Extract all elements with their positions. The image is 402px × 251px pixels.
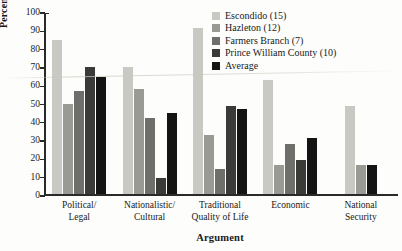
bar — [285, 144, 295, 195]
bar — [204, 135, 214, 195]
x-axis-label-line: National — [326, 200, 396, 212]
legend-label: Farmers Branch (7) — [225, 36, 303, 46]
y-axis-tick-label: 40 — [18, 118, 40, 128]
y-axis-tick — [40, 195, 45, 196]
bar-group — [44, 13, 114, 194]
legend-item: Prince William County (10) — [212, 48, 336, 58]
bar — [145, 118, 155, 194]
x-axis-title: Argument — [44, 232, 396, 243]
x-axis-label-line: Quality of Life — [185, 212, 255, 224]
x-axis-label: Economic — [255, 200, 325, 234]
y-axis-tick-label: 0 — [18, 191, 40, 201]
y-axis-tick-label: 80 — [18, 45, 40, 55]
bar — [134, 89, 144, 194]
bar — [237, 109, 247, 194]
legend-item: Average — [212, 61, 336, 71]
bar — [96, 77, 106, 195]
y-axis-tick-label: 10 — [18, 173, 40, 183]
chart-legend: Escondido (15)Hazleton (12)Farmers Branc… — [212, 11, 336, 71]
y-axis-tick-label: 50 — [18, 100, 40, 110]
x-axis-label-line: Traditional — [185, 200, 255, 212]
bar — [263, 80, 273, 194]
page-bleed-text — [4, 0, 398, 9]
x-axis-label-line: Economic — [255, 200, 325, 212]
x-axis-line — [44, 194, 398, 196]
bar — [226, 106, 236, 195]
bar — [63, 104, 73, 195]
x-axis-labels: Political/LegalNationalistic/CulturalTra… — [44, 200, 396, 234]
y-axis-tick-label: 30 — [18, 136, 40, 146]
legend-item: Hazleton (12) — [212, 23, 336, 33]
x-axis-label-line: Political/ — [44, 200, 114, 212]
legend-swatch-icon — [212, 37, 220, 45]
bar — [345, 106, 355, 195]
x-axis-label-line: Security — [326, 212, 396, 224]
y-axis-tick-label: 60 — [18, 81, 40, 91]
legend-swatch-icon — [212, 49, 220, 57]
y-axis-tick-label: 20 — [18, 154, 40, 164]
x-axis-label-line: Legal — [44, 212, 114, 224]
bar — [356, 165, 366, 194]
legend-label: Prince William County (10) — [225, 48, 336, 58]
bar — [123, 67, 133, 194]
x-axis-label: Nationalistic/Cultural — [114, 200, 184, 234]
legend-label: Escondido (15) — [225, 11, 286, 21]
legend-item: Farmers Branch (7) — [212, 36, 336, 46]
x-axis-label-line: Cultural — [114, 212, 184, 224]
x-axis-label: Political/Legal — [44, 200, 114, 234]
x-axis-label-line: Nationalistic/ — [114, 200, 184, 212]
bar — [296, 160, 306, 194]
y-axis-tick-label: 100 — [18, 8, 40, 18]
legend-item: Escondido (15) — [212, 11, 336, 21]
x-axis-label: TraditionalQuality of Life — [185, 200, 255, 234]
bar — [85, 67, 95, 194]
bar — [215, 169, 225, 194]
y-axis-tick-label: 70 — [18, 63, 40, 73]
x-axis-label: NationalSecurity — [326, 200, 396, 234]
bar — [167, 113, 177, 195]
bar — [367, 165, 377, 194]
bar — [274, 165, 284, 194]
legend-swatch-icon — [212, 62, 220, 70]
bar — [74, 91, 84, 194]
legend-swatch-icon — [212, 24, 220, 32]
bar — [52, 40, 62, 194]
y-axis-tick-label: 90 — [18, 26, 40, 36]
legend-label: Average — [225, 61, 258, 71]
bar — [156, 178, 166, 194]
bar-group — [114, 13, 184, 194]
bar — [307, 138, 317, 194]
legend-swatch-icon — [212, 12, 220, 20]
y-axis-title: Percentage of city officials — [0, 0, 9, 28]
legend-label: Hazleton (12) — [225, 23, 280, 33]
bar-chart-figure: Percentage of city officials 10090807060… — [0, 0, 402, 251]
bar — [193, 28, 203, 195]
